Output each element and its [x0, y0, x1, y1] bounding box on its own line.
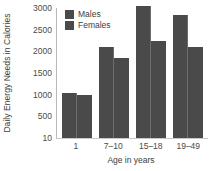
y-tick-label: 2500 — [33, 25, 52, 35]
legend-label: Females — [78, 21, 111, 30]
x-axis-title: Age in years — [56, 155, 206, 165]
y-tick-label: 2000 — [33, 46, 52, 56]
bar-males-1 — [99, 47, 114, 138]
y-axis-title: Daily Energy Needs in Calories — [0, 0, 14, 145]
x-tick-label: 19–49 — [172, 141, 204, 153]
x-tick-label: 15–18 — [135, 141, 167, 153]
bar-group — [136, 8, 166, 138]
y-tick-label: 10 — [43, 133, 52, 143]
y-tick-label: 1500 — [33, 68, 52, 78]
x-tick-label: 1 — [60, 141, 92, 153]
legend-label: Males — [78, 10, 101, 19]
y-axis-tick-labels: 1050010001500200025003000 — [14, 0, 54, 145]
bar-males-3 — [173, 15, 188, 138]
bar-females-3 — [188, 47, 203, 138]
bar-males-0 — [62, 93, 77, 138]
y-tick-label: 3000 — [33, 3, 52, 13]
legend-item: Females — [65, 21, 111, 30]
x-axis-line — [56, 138, 208, 139]
y-axis-title-text: Daily Energy Needs in Calories — [2, 13, 12, 132]
bar-group — [173, 8, 203, 138]
bar-females-2 — [151, 41, 166, 138]
bar-males-2 — [136, 6, 151, 138]
legend-item: Males — [65, 10, 111, 19]
x-tick-label: 7–10 — [97, 141, 129, 153]
plot-area: MalesFemales — [56, 8, 206, 138]
x-axis-tick-labels: 17–1015–1819–49 — [57, 141, 207, 153]
y-tick-label: 500 — [38, 111, 52, 121]
legend-swatch-icon — [65, 21, 74, 30]
bar-chart: Daily Energy Needs in Calories 105001000… — [0, 0, 210, 171]
y-tick-label: 1000 — [33, 90, 52, 100]
legend-swatch-icon — [65, 10, 74, 19]
bar-females-0 — [77, 95, 92, 138]
bar-females-1 — [114, 58, 129, 138]
legend: MalesFemales — [65, 10, 111, 32]
